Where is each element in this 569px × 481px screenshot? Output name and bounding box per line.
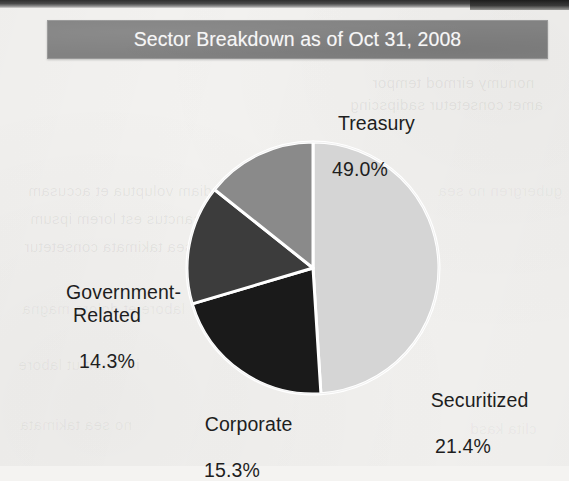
pie-chart-area: Treasury 49.0%Securitized 21.4%Corporate… (0, 60, 569, 466)
pie-label-government-related: Government- Related 14.3% (24, 258, 190, 419)
scan-edge-top-right (470, 0, 569, 10)
pie-label-securitized-name: Securitized (431, 389, 529, 411)
chart-title: Sector Breakdown as of Oct 31, 2008 (134, 28, 462, 51)
pie-label-securitized-value: 21.4% (378, 435, 548, 458)
pie-label-treasury-value: 49.0% (287, 158, 433, 181)
pie-label-government-related-name: Government- Related (66, 281, 181, 326)
chart-title-band: Sector Breakdown as of Oct 31, 2008 (47, 20, 548, 59)
pie-label-corporate-name: Corporate (205, 413, 293, 435)
pie-label-government-related-value: 14.3% (24, 350, 190, 373)
pie-label-corporate-value: 15.3% (156, 459, 308, 481)
pie-label-treasury-name: Treasury (338, 112, 415, 134)
pie-label-securitized: Securitized 21.4% (378, 366, 548, 481)
pie-label-treasury: Treasury 49.0% (287, 89, 433, 227)
